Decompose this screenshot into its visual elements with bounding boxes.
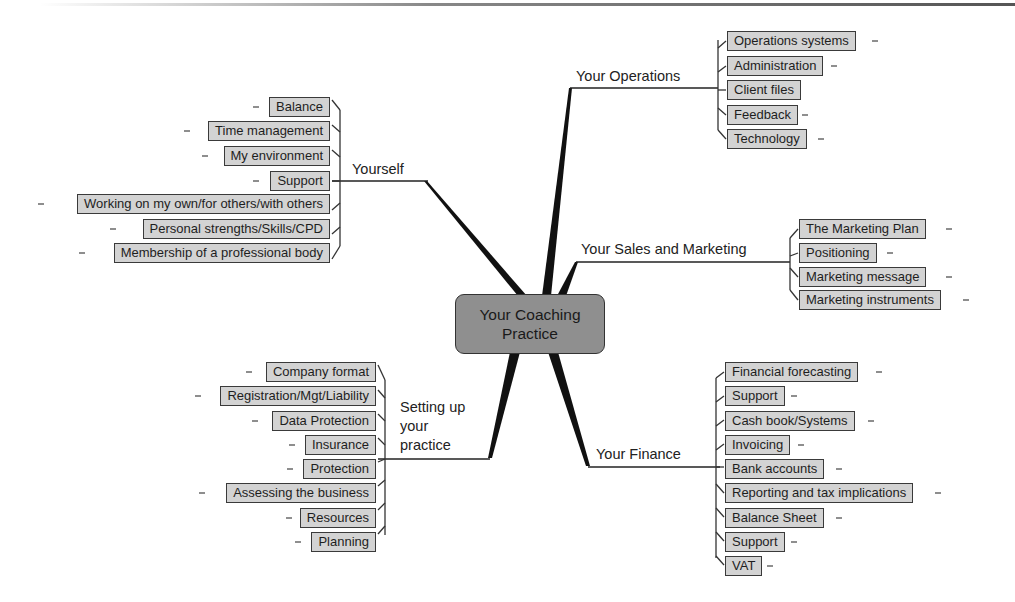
central-topic-line2: Practice	[479, 324, 580, 343]
leaf-planning[interactable]: Planning	[311, 532, 376, 552]
branch-operations[interactable]: Your Operations	[576, 67, 680, 85]
leaf-marketing-plan[interactable]: The Marketing Plan	[799, 219, 926, 239]
leaf-data-protection[interactable]: Data Protection	[272, 411, 376, 431]
leaf-operations-systems[interactable]: Operations systems	[727, 31, 856, 51]
leaf-time-management[interactable]: Time management	[208, 121, 330, 141]
leaf-cash-book[interactable]: Cash book/Systems	[725, 411, 855, 431]
leaf-balance-sheet[interactable]: Balance Sheet	[725, 508, 824, 528]
leaf-financial-forecasting[interactable]: Financial forecasting	[725, 362, 858, 382]
branch-sales-marketing[interactable]: Your Sales and Marketing	[581, 240, 747, 258]
leaf-assessing-business[interactable]: Assessing the business	[226, 483, 376, 503]
branch-setting-up[interactable]: Setting up your practice	[400, 398, 465, 455]
branch-finance[interactable]: Your Finance	[596, 445, 681, 463]
leaf-feedback[interactable]: Feedback	[727, 105, 798, 125]
leaf-membership[interactable]: Membership of a professional body	[114, 243, 330, 263]
branch-setting-up-line2: your	[400, 417, 465, 436]
leaf-insurance[interactable]: Insurance	[305, 435, 376, 455]
leaf-invoicing[interactable]: Invoicing	[725, 435, 790, 455]
leaf-registration[interactable]: Registration/Mgt/Liability	[220, 386, 376, 406]
leaf-vat[interactable]: VAT	[725, 556, 762, 576]
leaf-positioning[interactable]: Positioning	[799, 243, 877, 263]
leaf-support-yourself[interactable]: Support	[270, 171, 330, 191]
leaf-marketing-message[interactable]: Marketing message	[799, 267, 926, 287]
central-topic[interactable]: Your Coaching Practice	[455, 294, 605, 354]
central-topic-line1: Your Coaching	[479, 305, 580, 324]
leaf-support-finance[interactable]: Support	[725, 386, 785, 406]
leaf-bank-accounts[interactable]: Bank accounts	[725, 459, 824, 479]
branch-setting-up-line3: practice	[400, 436, 465, 455]
leaf-client-files[interactable]: Client files	[727, 80, 801, 100]
leaf-protection[interactable]: Protection	[303, 459, 376, 479]
leaf-resources[interactable]: Resources	[300, 508, 376, 528]
leaf-balance[interactable]: Balance	[269, 97, 330, 117]
leaf-my-environment[interactable]: My environment	[224, 146, 330, 166]
leaf-company-format[interactable]: Company format	[266, 362, 376, 382]
leaf-reporting-tax[interactable]: Reporting and tax implications	[725, 483, 913, 503]
branch-setting-up-line1: Setting up	[400, 398, 465, 417]
leaf-administration[interactable]: Administration	[727, 56, 823, 76]
leaf-working-on-my-own[interactable]: Working on my own/for others/with others	[77, 194, 330, 214]
leaf-marketing-instruments[interactable]: Marketing instruments	[799, 290, 941, 310]
leaf-personal-strengths[interactable]: Personal strengths/Skills/CPD	[143, 219, 330, 239]
leaf-support-finance-2[interactable]: Support	[725, 532, 785, 552]
branch-yourself[interactable]: Yourself	[352, 160, 404, 178]
leaf-technology[interactable]: Technology	[727, 129, 807, 149]
